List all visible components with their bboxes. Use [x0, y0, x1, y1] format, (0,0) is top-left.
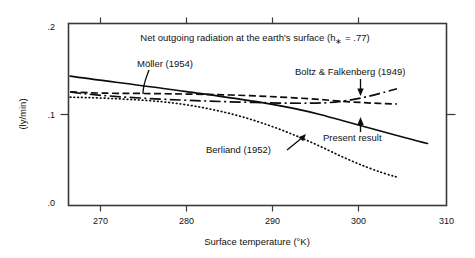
- x-tick-label-290: 290: [265, 216, 280, 226]
- y-tick-label-0.0: .0: [47, 198, 55, 208]
- top-axis-ticks: [101, 18, 359, 24]
- chart-title-tail: = .77): [342, 32, 369, 43]
- y-tick-label-0.1: .1: [47, 110, 55, 120]
- x-tick-label-300: 300: [351, 216, 366, 226]
- annotation-present-result-label: Present result: [323, 132, 382, 143]
- annotation-boltz-falkenberg-label: Boltz & Falkenberg (1949): [295, 66, 405, 77]
- annotation-berliand-label: Berliand (1952): [206, 144, 271, 155]
- y-tick-label-0.2: .2: [47, 22, 55, 32]
- x-tick-label-270: 270: [93, 216, 108, 226]
- chart-title-subscript: ∗: [335, 37, 342, 46]
- chart-canvas: .2 .1 .0 270 280 290 300 310 Surface tem…: [0, 0, 475, 258]
- x-axis-title: Surface temperature (°K): [204, 236, 310, 247]
- plot-frame: [69, 24, 447, 206]
- x-tick-label-310: 310: [439, 216, 454, 226]
- chart-title-main: Net outgoing radiation at the earth's su…: [140, 32, 335, 43]
- boltz-falkenberg-arrow: [357, 79, 363, 96]
- y-axis-title: (ly/min): [17, 98, 28, 129]
- moller-leader-line: [143, 70, 149, 94]
- bottom-axis-ticks: [101, 206, 359, 212]
- x-tick-label-280: 280: [179, 216, 194, 226]
- present-result-arrow: [357, 117, 363, 132]
- annotation-moller-label: Möller (1954): [137, 58, 193, 69]
- figure-container: .2 .1 .0 270 280 290 300 310 Surface tem…: [0, 0, 475, 258]
- chart-title: Net outgoing radiation at the earth's su…: [140, 32, 369, 46]
- berliand-leader-line: [287, 137, 303, 150]
